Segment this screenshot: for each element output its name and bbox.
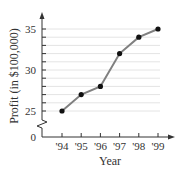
data-point xyxy=(98,84,103,89)
x-tick-label: '97 xyxy=(113,140,126,152)
y-tick-label: 30 xyxy=(25,64,37,76)
x-axis-arrow-icon xyxy=(168,135,175,140)
y-axis-arrow-icon xyxy=(40,12,45,19)
y-tick-label: 35 xyxy=(25,23,37,35)
gridlines xyxy=(42,29,160,111)
x-axis-label: Year xyxy=(99,154,121,168)
x-tick-label: '96 xyxy=(94,140,107,152)
y-tick-label: 25 xyxy=(25,105,37,117)
data-point xyxy=(79,92,84,97)
x-tick-label: '99 xyxy=(152,140,165,152)
line-chart: 253035 '94'95'96'97'98'99 0 Year Profit … xyxy=(0,0,188,177)
x-ticks: '94'95'96'97'98'99 xyxy=(56,133,165,152)
data-point xyxy=(59,108,64,113)
data-point xyxy=(155,26,160,31)
data-point xyxy=(136,35,141,40)
y-tick-zero: 0 xyxy=(31,131,37,143)
y-axis-label: Profit (in $100,000) xyxy=(7,28,21,124)
y-ticks: 253035 xyxy=(25,23,46,117)
x-tick-label: '98 xyxy=(132,140,145,152)
x-tick-label: '94 xyxy=(56,140,69,152)
axis-break-icon xyxy=(37,120,47,128)
x-tick-label: '95 xyxy=(75,140,88,152)
data-point xyxy=(117,51,122,56)
